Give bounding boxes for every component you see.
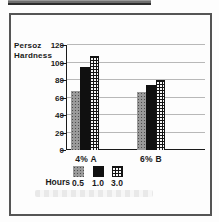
bar-4a-10 <box>80 67 89 150</box>
bar-6b-05 <box>137 92 146 150</box>
legend-item-30: 3.0 <box>107 166 127 188</box>
y-tick-label-40: 40 <box>38 111 64 120</box>
plot-area <box>66 45 205 150</box>
legend-swatch-solid-black <box>93 166 104 177</box>
gridline-100 <box>67 62 205 63</box>
legend-item-05: 0.5 <box>68 166 88 188</box>
bar-6b-30 <box>156 80 165 150</box>
y-tick-label-20: 20 <box>38 129 64 138</box>
legend-swatch-grid-checker <box>112 166 123 177</box>
truncated-underlined-heading <box>8 0 151 5</box>
y-tick-label-80: 80 <box>38 76 64 85</box>
legend-label-30: 3.0 <box>111 178 123 188</box>
bar-6b-10 <box>146 85 155 150</box>
legend-item-10: 1.0 <box>88 166 108 188</box>
ghost-bleedthrough-text <box>35 190 153 197</box>
legend-label-10: 1.0 <box>92 178 104 188</box>
scanned-chart-page: Persoz Hardness Hours 0.51.03.0 02040608… <box>0 0 219 222</box>
category-label-1: 4% A <box>75 154 97 164</box>
legend-label-05: 0.5 <box>72 178 84 188</box>
legend-swatch-stipple-gray <box>73 166 84 177</box>
bar-4a-05 <box>71 91 80 150</box>
y-tick-label-0: 0 <box>38 146 64 155</box>
y-tick-label-120: 120 <box>38 41 64 50</box>
gridline-120 <box>67 44 205 45</box>
legend: Hours 0.51.03.0 <box>36 166 186 190</box>
y-tick-label-100: 100 <box>38 59 64 68</box>
category-label-2: 6% B <box>140 154 162 164</box>
legend-title: Hours <box>36 177 70 187</box>
bar-4a-30 <box>90 56 99 151</box>
y-tick-label-60: 60 <box>38 94 64 103</box>
